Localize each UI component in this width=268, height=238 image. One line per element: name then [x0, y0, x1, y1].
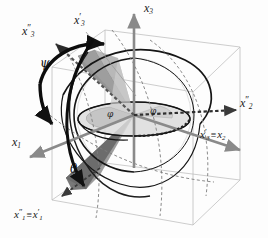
angle-label-phi-2: φ — [150, 107, 156, 116]
axis-label-x1pp-x1p: x″1≡x′1 — [14, 208, 43, 222]
axis-label-x3p-x2-text: x′3≡x2 — [200, 128, 225, 140]
diagram-canvas — [0, 0, 268, 238]
axis-label-x1-text: x1 — [12, 135, 21, 149]
axis-label-x3-text: x3 — [144, 1, 153, 15]
axis-label-x1pp-x1p-text: x″1≡x′1 — [14, 208, 43, 220]
angle-label-theta: θ — [70, 163, 77, 175]
angle-label-psi: ψ — [40, 57, 49, 69]
axis-label-x3p: x′3 — [74, 13, 85, 27]
axis-label-x3p-text: x′3 — [74, 13, 85, 27]
angle-label-psi-text: ψ — [40, 56, 49, 70]
euler-angles-figure: x3 x″3 x′3 x″2 x′3≡x2 x1 x″1≡x′1 ψ θ φ φ — [0, 0, 268, 238]
axis-label-x3: x3 — [144, 2, 153, 16]
axis-label-x3pp-text: x″3 — [22, 24, 34, 38]
axis-label-x1: x1 — [12, 136, 21, 150]
axis-label-x3pp: x″3 — [22, 24, 34, 38]
angle-label-theta-text: θ — [70, 162, 77, 176]
axis-label-x2pp-text: x″2 — [240, 96, 252, 110]
axis-label-x3p-x2: x′3≡x2 — [200, 128, 225, 142]
angle-label-phi-1: φ — [107, 110, 113, 119]
axis-label-x2pp: x″2 — [240, 96, 252, 110]
angle-label-phi-1-text: φ — [107, 109, 113, 119]
angle-label-phi-2-text: φ — [150, 106, 156, 116]
